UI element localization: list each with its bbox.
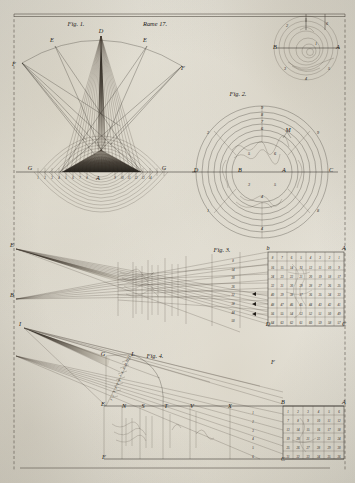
fig3-cell-6-0: 56 bbox=[271, 312, 275, 316]
fig3-label-e-apex-upper: E bbox=[9, 241, 14, 248]
fig4-scale-2: 2 bbox=[111, 394, 115, 398]
fig0-label-b-axis-left: B bbox=[273, 43, 277, 50]
fig2-label-8-ring: 8 bbox=[261, 112, 264, 117]
fig1-label-g-baseline-end: G bbox=[28, 164, 33, 171]
fig4-cell-1-4: 11 bbox=[328, 419, 331, 423]
fig3-label-f-vanishing: F bbox=[270, 358, 275, 365]
fig4-cell-5-5: 36 bbox=[337, 455, 341, 459]
fig3-caption: Fig. 3. bbox=[213, 246, 231, 253]
fig4-cell-1-0: 7 bbox=[287, 419, 289, 423]
fig4-cell-1-1: 8 bbox=[297, 419, 299, 423]
fig4-cell-0-2: 3 bbox=[307, 410, 309, 414]
fig4-cell-5-4: 35 bbox=[327, 455, 331, 459]
fig2-label-9-ring-outer: 9 bbox=[317, 130, 320, 135]
fig4-depth-3: 4 bbox=[252, 437, 254, 441]
fig2-label-1-ring-outer: 1 bbox=[207, 208, 209, 213]
fig4-cell-4-4: 29 bbox=[327, 446, 331, 450]
fig3-cell-2-0: 24 bbox=[271, 275, 275, 279]
fig3-cell-3-2: 30 bbox=[290, 284, 294, 288]
fig4-grid bbox=[283, 406, 344, 459]
fig3-scale-3: 26 bbox=[231, 285, 235, 289]
fig4-cell-3-3: 22 bbox=[317, 437, 321, 441]
fig2-label-6-ring: 6 bbox=[274, 151, 277, 156]
fig1-label-d-apex: D bbox=[98, 27, 104, 34]
fig4-label-s-base-tick: S bbox=[141, 402, 144, 409]
fig3-cell-0-7: 1 bbox=[338, 256, 340, 260]
fig4-cell-2-2: 15 bbox=[306, 428, 310, 432]
fig4-cell-2-4: 17 bbox=[327, 428, 331, 432]
figure-captions: Fig. 1.Fig. 2.Fig. 3.Fig. 4. bbox=[67, 20, 247, 359]
fig1-label-e-arc-point: E bbox=[142, 36, 147, 43]
fig1-tick-2: 2 bbox=[44, 176, 46, 180]
fig4-depth-0: 1 bbox=[252, 411, 254, 415]
fig2-label-6-ring: 6 bbox=[261, 126, 264, 131]
fig3-scale-5: 38 bbox=[231, 302, 235, 306]
fig4-cell-0-3: 4 bbox=[318, 410, 320, 414]
fig3-cell-2-2: 22 bbox=[290, 275, 294, 279]
fig3-scale-0: 8 bbox=[232, 259, 234, 263]
fig3-cell-5-7: 41 bbox=[337, 303, 341, 307]
fig1-tick-7: 7 bbox=[79, 176, 81, 180]
fig3-cell-1-1: 15 bbox=[280, 266, 284, 270]
fig1-label-a-center: A bbox=[95, 174, 100, 181]
fig3-cell-6-3: 53 bbox=[299, 312, 303, 316]
fig1-tick-3: 3 bbox=[51, 176, 53, 180]
fig3-cell-1-0: 16 bbox=[271, 266, 275, 270]
fig3-cell-3-6: 26 bbox=[328, 284, 332, 288]
fig2-label-3-ring: 3 bbox=[248, 182, 250, 187]
fig3-cell-1-4: 12 bbox=[309, 266, 313, 270]
fig3-cell-0-1: 7 bbox=[281, 256, 283, 260]
fig3-scale-4: 32 bbox=[231, 293, 235, 297]
fig1-label-e-arc-point: E bbox=[49, 36, 54, 43]
fig4-verticals bbox=[122, 406, 230, 459]
fig1-caption: Fig. 1. bbox=[67, 20, 85, 27]
fig1-tick-9: 9 bbox=[114, 176, 116, 180]
fig4-rays-from-I bbox=[24, 328, 283, 406]
fig4-depth-4: 5 bbox=[252, 446, 254, 450]
fig4-cell-2-1: 14 bbox=[296, 428, 300, 432]
fig2-label-a-centre: A bbox=[281, 166, 286, 173]
fig4-cell-2-3: 16 bbox=[317, 428, 321, 432]
fig4-cell-5-2: 33 bbox=[306, 455, 310, 459]
fig1-tick-1: 1 bbox=[37, 176, 39, 180]
fig3-cell-5-3: 45 bbox=[299, 303, 303, 307]
grid-numerals: 1234567891011121314876543211615141312111… bbox=[37, 176, 341, 459]
fig0-label-5-perimeter: 5 bbox=[328, 66, 330, 71]
fig1-tick-13: 13 bbox=[141, 176, 145, 180]
fig4-cell-4-3: 28 bbox=[317, 446, 321, 450]
fig2-label-7-ring: 7 bbox=[261, 119, 264, 124]
fig4-cell-0-0: 1 bbox=[287, 410, 289, 414]
fig3-cell-7-2: 62 bbox=[290, 321, 294, 325]
fig3-cell-4-5: 35 bbox=[318, 293, 322, 297]
fig3-cell-5-0: 48 bbox=[271, 303, 275, 307]
fig4-label-g-scale-top: G bbox=[101, 350, 106, 357]
fig3-registers bbox=[118, 265, 268, 310]
fig4-cell-5-1: 32 bbox=[296, 455, 300, 459]
fig3-cell-7-6: 58 bbox=[328, 321, 332, 325]
fig3-label-b-apex-lower: B bbox=[10, 291, 14, 298]
fig4-cell-2-5: 18 bbox=[337, 428, 341, 432]
fig3-cell-4-2: 38 bbox=[290, 293, 294, 297]
fig4-label-e-scale-foot: E bbox=[100, 400, 105, 407]
fig3-label-d-grid-corner: D bbox=[265, 320, 271, 327]
fig3-cell-2-5: 19 bbox=[318, 275, 322, 279]
fig0-label-a-axis-right: A bbox=[335, 43, 340, 50]
fig3-cell-3-1: 31 bbox=[280, 284, 284, 288]
fig3-cell-0-5: 3 bbox=[319, 256, 321, 260]
plate-artwork: DEEFFGGADCBAM98765635429184BA263541EBbAD… bbox=[0, 0, 355, 483]
fig2-label-4-ring-outer: 4 bbox=[261, 226, 263, 231]
fig3-cell-2-4: 20 bbox=[309, 275, 313, 279]
fig4-scale-7: 7 bbox=[119, 374, 123, 378]
fig3-label-b-grid-corner: b bbox=[266, 244, 269, 251]
fig4-scale-4: 4 bbox=[114, 386, 118, 390]
fig2-label-5-ring: 5 bbox=[248, 151, 250, 156]
fig3-grid bbox=[268, 252, 344, 326]
figure-1 bbox=[16, 36, 196, 212]
fig4-label-i-apex: I bbox=[18, 320, 22, 327]
fig4-cell-3-5: 24 bbox=[337, 437, 341, 441]
fig2-label-9-ring: 9 bbox=[261, 105, 264, 110]
fig1-tick-10: 10 bbox=[120, 176, 124, 180]
fig3-cell-7-4: 60 bbox=[309, 321, 313, 325]
figure-2 bbox=[192, 106, 338, 238]
fig4-cell-0-5: 6 bbox=[338, 410, 340, 414]
